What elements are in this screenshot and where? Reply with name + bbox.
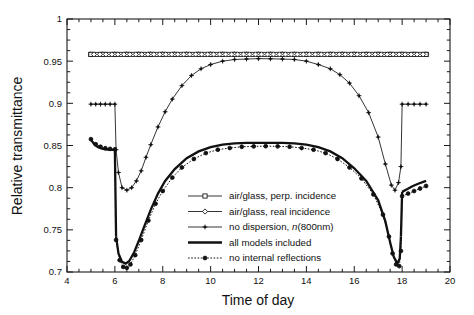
x-tick-label: 4 — [64, 275, 69, 286]
y-tick-label: 0.75 — [44, 224, 63, 235]
y-tick-label: 0.7 — [49, 266, 62, 277]
x-tick-label: 10 — [205, 275, 216, 286]
figure-page: 4681012141618200.70.750.80.850.90.951 ai… — [0, 0, 474, 315]
y-tick-label: 0.8 — [49, 182, 62, 193]
x-tick-label: 16 — [349, 275, 360, 286]
x-axis-title: Time of day — [222, 292, 295, 308]
legend-label-4: no internal reflections — [229, 252, 321, 263]
x-tick-label: 14 — [301, 275, 312, 286]
y-tick-label: 0.9 — [49, 98, 62, 109]
transmittance-chart: 4681012141618200.70.750.80.850.90.951 ai… — [0, 0, 474, 315]
x-tick-label: 18 — [397, 275, 408, 286]
y-tick-label: 1 — [57, 13, 62, 24]
x-tick-label: 12 — [253, 275, 264, 286]
legend-label-2: no dispersion, n(800nm) — [229, 221, 333, 232]
legend-label-1: air/glass, real incidence — [229, 206, 330, 217]
y-tick-label: 0.85 — [44, 140, 63, 151]
x-tick-label: 20 — [445, 275, 456, 286]
legend-label-3: all models included — [229, 237, 311, 248]
x-tick-label: 8 — [160, 275, 165, 286]
y-axis-title: Relative transmittance — [9, 77, 25, 216]
y-tick-label: 0.95 — [44, 56, 63, 67]
chart-background — [0, 0, 474, 315]
x-tick-label: 6 — [112, 275, 117, 286]
legend-label-0: air/glass, perp. incidence — [229, 190, 336, 201]
